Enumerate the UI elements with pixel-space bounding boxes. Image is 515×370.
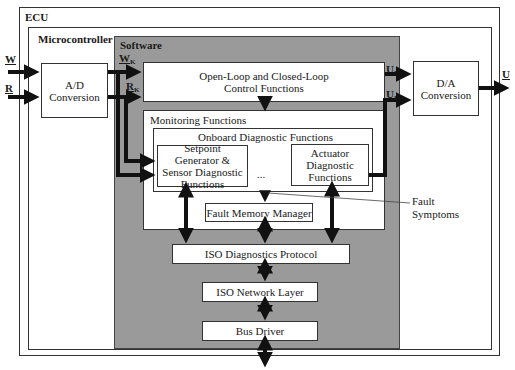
connector-layer — [0, 0, 515, 370]
